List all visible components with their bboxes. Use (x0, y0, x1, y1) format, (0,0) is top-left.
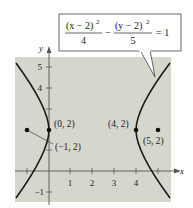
vertex-point (47, 128, 52, 133)
hyperbola-figure: 1 2 3 4 5 4 −1 x y (0, 2) (4, 2) (−1, 2)… (0, 0, 193, 208)
point-label: (0, 2) (54, 119, 75, 130)
y-axis-label: y (38, 43, 43, 53)
point-label: (4, 2) (108, 119, 129, 130)
y-tick-label: 4 (38, 83, 43, 93)
y-tick-label: −1 (34, 187, 44, 197)
eq-term2-exponent: 2 (146, 18, 150, 26)
x-axis-label: x (179, 166, 184, 176)
y-axis-arrow-icon (47, 46, 52, 53)
point-label: (−1, 2) (55, 142, 81, 153)
eq-term1-denominator: 4 (81, 35, 86, 46)
eq-term2-denominator: 5 (131, 35, 136, 46)
eq-term2-numerator: (y − 2) (115, 20, 142, 32)
x-tick-label: 1 (68, 178, 73, 188)
y-tick-label: 5 (38, 62, 43, 72)
x-tick-label: 3 (112, 178, 117, 188)
eq-rhs: = 1 (156, 27, 169, 38)
x-tick-label: 4 (134, 178, 139, 188)
x-tick-label: 2 (90, 178, 95, 188)
focus-point (25, 128, 30, 133)
point-label: (5, 2) (143, 136, 164, 147)
eq-operator: − (105, 27, 111, 38)
focus-point (156, 128, 161, 133)
eq-term1-numerator: (x − 2) (66, 20, 93, 32)
vertex-point (134, 128, 139, 133)
eq-term1-exponent: 2 (96, 18, 100, 26)
